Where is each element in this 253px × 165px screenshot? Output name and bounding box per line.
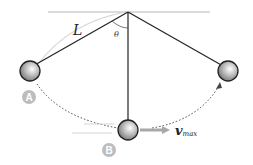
ball-b bbox=[118, 120, 138, 140]
label-b: B bbox=[105, 145, 112, 156]
pendulum-diagram: A B L θ vmax bbox=[0, 0, 253, 165]
angle-arc bbox=[112, 21, 128, 28]
string-right bbox=[128, 12, 223, 66]
velocity-label: vmax bbox=[175, 123, 197, 138]
length-label: L bbox=[72, 22, 82, 38]
string-left bbox=[33, 12, 128, 66]
swing-path-right bbox=[152, 84, 220, 128]
angle-label: θ bbox=[114, 30, 119, 39]
velocity-arrowhead bbox=[162, 126, 170, 134]
ball-right bbox=[218, 61, 238, 81]
label-a: A bbox=[25, 92, 32, 103]
ball-a bbox=[20, 61, 40, 81]
path-arrowhead bbox=[216, 82, 222, 89]
swing-path-left bbox=[37, 84, 118, 128]
